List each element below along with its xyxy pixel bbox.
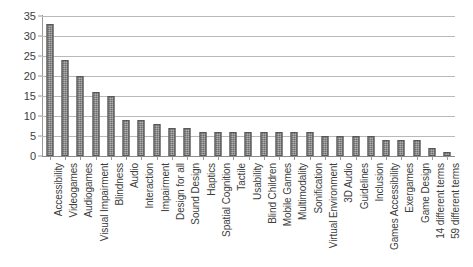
x-tick-label: Game Design (421, 163, 431, 223)
x-tick-label: Blind Children (268, 163, 278, 224)
x-tick-mark (356, 156, 357, 160)
x-tick-label: Audiogames (84, 163, 94, 218)
bar-slot (195, 16, 210, 156)
x-tick-label: Haptics (207, 163, 217, 196)
y-tick-label-10: 10 (24, 111, 36, 122)
bar[interactable] (413, 140, 420, 156)
bar[interactable] (199, 132, 206, 156)
x-tick-mark (447, 156, 448, 160)
bar[interactable] (184, 128, 191, 156)
bar-slot (317, 16, 332, 156)
x-tick-label: Exergames (405, 163, 415, 213)
bar[interactable] (107, 96, 114, 156)
x-tick-label: 59 different terms (451, 163, 461, 239)
x-tick-label: Sound Design (191, 163, 201, 225)
x-tick-mark (111, 156, 112, 160)
x-tick-mark (249, 156, 250, 160)
x-tick-label: Multimodality (298, 163, 308, 220)
bar[interactable] (245, 132, 252, 156)
bar[interactable] (321, 136, 328, 156)
x-tick-mark (203, 156, 204, 160)
bar-slot (302, 16, 317, 156)
bar[interactable] (77, 76, 84, 156)
bar[interactable] (260, 132, 267, 156)
x-tick-label: Sonification (314, 163, 324, 214)
x-tick-label: Spatial Cognition (222, 163, 232, 237)
bar-slot (440, 16, 455, 156)
x-tick-mark (432, 156, 433, 160)
bar[interactable] (398, 140, 405, 156)
x-tick-mark (65, 156, 66, 160)
bar-slot (241, 16, 256, 156)
x-tick-mark (371, 156, 372, 160)
x-tick-label: Inclusion (375, 163, 385, 202)
x-tick-mark (96, 156, 97, 160)
x-tick-label: Usability (253, 163, 263, 200)
bar[interactable] (138, 120, 145, 156)
bar-slot (118, 16, 133, 156)
bar-slot (271, 16, 286, 156)
bar-slot (348, 16, 363, 156)
bar-slot (42, 16, 57, 156)
y-tick-label-35: 35 (24, 11, 36, 22)
x-tick-label: Blindness (115, 163, 125, 205)
bar[interactable] (291, 132, 298, 156)
bar-slot (57, 16, 72, 156)
bar-series (42, 16, 455, 156)
y-tick-label-5: 5 (30, 131, 36, 142)
x-tick-mark (233, 156, 234, 160)
bar[interactable] (169, 128, 176, 156)
y-tick-label-0: 0 (30, 151, 36, 162)
bar-slot (256, 16, 271, 156)
bar[interactable] (92, 92, 99, 156)
x-tick-mark (157, 156, 158, 160)
x-tick-label: Mobile Games (283, 163, 293, 226)
bar-slot (287, 16, 302, 156)
bar[interactable] (429, 148, 436, 156)
x-tick-mark (50, 156, 51, 160)
bar[interactable] (337, 136, 344, 156)
bar[interactable] (367, 136, 374, 156)
bar[interactable] (123, 120, 130, 156)
x-tick-label: Games Accessibility (390, 163, 400, 250)
bar-slot (149, 16, 164, 156)
x-tick-mark (187, 156, 188, 160)
x-tick-mark (218, 156, 219, 160)
x-tick-mark (401, 156, 402, 160)
x-tick-label: 14 different terms (436, 163, 446, 239)
bar-slot (409, 16, 424, 156)
bar[interactable] (230, 132, 237, 156)
bar[interactable] (61, 60, 68, 156)
x-tick-label: Interaction (145, 163, 155, 209)
bar-chart: 05101520253035 AccessibilityVideogamesAu… (0, 0, 473, 267)
bar-slot (134, 16, 149, 156)
x-tick-mark (264, 156, 265, 160)
x-tick-label: Audio (130, 163, 140, 188)
bar-slot (103, 16, 118, 156)
x-tick-label: Tactile (237, 163, 247, 191)
bar-slot (226, 16, 241, 156)
bar[interactable] (352, 136, 359, 156)
bar-slot (424, 16, 439, 156)
x-tick-mark (417, 156, 418, 160)
bar[interactable] (46, 24, 53, 156)
bar[interactable] (306, 132, 313, 156)
bar-slot (180, 16, 195, 156)
bar[interactable] (214, 132, 221, 156)
x-tick-label: Virtual Environment (329, 163, 339, 248)
bar-slot (73, 16, 88, 156)
x-tick-mark (172, 156, 173, 160)
y-tick-label-20: 20 (24, 71, 36, 82)
x-tick-mark (310, 156, 311, 160)
bar[interactable] (383, 140, 390, 156)
x-tick-label: Accessibility (54, 163, 64, 216)
bar-slot (210, 16, 225, 156)
bar[interactable] (153, 124, 160, 156)
x-tick-label: Impairment (161, 163, 171, 212)
x-tick-mark (279, 156, 280, 160)
x-tick-mark (80, 156, 81, 160)
bar-slot (333, 16, 348, 156)
x-tick-mark (325, 156, 326, 160)
x-axis-category-labels: AccessibilityVideogamesAudiogamesVisual … (42, 156, 455, 267)
bar[interactable] (276, 132, 283, 156)
